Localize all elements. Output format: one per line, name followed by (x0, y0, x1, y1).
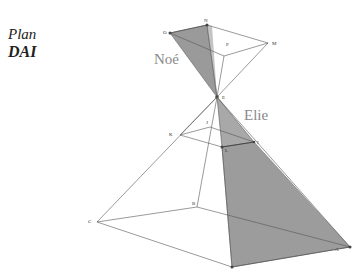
label-noe: Noé (154, 51, 179, 67)
upper-pyramid (169, 24, 269, 99)
point-label-p: P (226, 42, 229, 47)
point-label-e: E (222, 95, 225, 100)
lower-pyramid (97, 97, 352, 269)
point-label-l: L (225, 148, 228, 153)
point-label-a: A (335, 247, 339, 252)
point-label-c: C (88, 219, 92, 224)
label-elie: Elie (244, 107, 268, 123)
point-label-m: M (272, 41, 277, 46)
elie-lower-face (222, 142, 350, 267)
point-label-j: J (206, 120, 208, 125)
pyramid-diagram: O N M P E K J L I C B A Noé Elie (0, 0, 354, 270)
point-label-k: K (169, 132, 173, 137)
point-label-o: O (163, 30, 167, 35)
point-label-b: B (192, 201, 196, 206)
point-label-n: N (204, 18, 208, 23)
